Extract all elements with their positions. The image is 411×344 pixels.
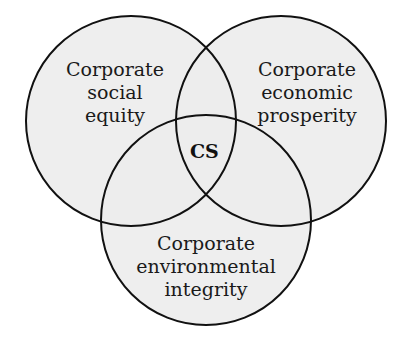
label-line: economic [252,81,362,104]
label-social: Corporate social equity [55,58,175,127]
label-line: integrity [136,278,276,301]
label-line: prosperity [252,104,362,127]
label-line: Corporate [55,58,175,81]
label-environmental: Corporate environmental integrity [136,232,276,301]
label-line: social [55,81,175,104]
label-line: environmental [136,255,276,278]
label-line: Corporate [252,58,362,81]
label-line: equity [55,104,175,127]
label-line: Corporate [136,232,276,255]
center-label: CS [190,140,219,162]
label-economic: Corporate economic prosperity [252,58,362,127]
